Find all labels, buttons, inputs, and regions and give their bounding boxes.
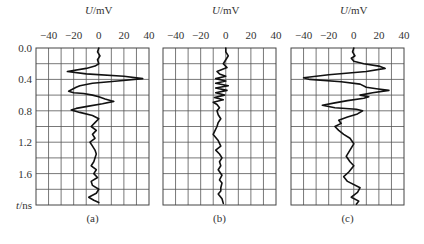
y-tick-label: 1.6 bbox=[18, 168, 32, 180]
x-tick-label: 40 bbox=[399, 29, 411, 41]
panel-caption: (c) bbox=[341, 212, 354, 225]
x-tick-label: 40 bbox=[144, 29, 156, 41]
x-tick-label: 20 bbox=[118, 29, 130, 41]
x-tick-label: −20 bbox=[192, 29, 210, 41]
x-tick-label: 20 bbox=[245, 29, 257, 41]
x-tick-label: 0 bbox=[223, 29, 229, 41]
x-tick-label: 0 bbox=[351, 29, 357, 41]
x-tick-label: −20 bbox=[65, 29, 83, 41]
y-tick-label: 0.4 bbox=[18, 73, 32, 85]
waveform-chart: U/mV−40−2002040(a)U/mV−40−2002040(b)U/mV… bbox=[0, 0, 424, 244]
panel-b: U/mV−40−2002040(b) bbox=[163, 4, 282, 225]
y-tick-label: 1.2 bbox=[18, 136, 32, 148]
panel-a: U/mV−40−2002040(a) bbox=[36, 4, 155, 225]
y-tick-label: 0.0 bbox=[18, 42, 32, 54]
x-tick-label: −20 bbox=[320, 29, 338, 41]
x-tick-label: 40 bbox=[271, 29, 283, 41]
y-tick-label: 0.8 bbox=[18, 105, 32, 117]
x-tick-label: 20 bbox=[373, 29, 385, 41]
unit-label: U/mV bbox=[340, 4, 368, 16]
y-axis-label: t/ns bbox=[16, 199, 32, 211]
x-tick-label: −40 bbox=[40, 29, 58, 41]
x-tick-label: 0 bbox=[96, 29, 102, 41]
panel-caption: (a) bbox=[86, 212, 99, 225]
unit-label: U/mV bbox=[212, 4, 240, 16]
panel-caption: (b) bbox=[213, 212, 226, 225]
waveform-trace bbox=[67, 48, 142, 203]
x-tick-label: −40 bbox=[167, 29, 185, 41]
x-tick-label: −40 bbox=[295, 29, 313, 41]
grid bbox=[163, 48, 276, 205]
unit-label: U/mV bbox=[85, 4, 113, 16]
panel-c: U/mV−40−2002040(c) bbox=[291, 4, 410, 225]
